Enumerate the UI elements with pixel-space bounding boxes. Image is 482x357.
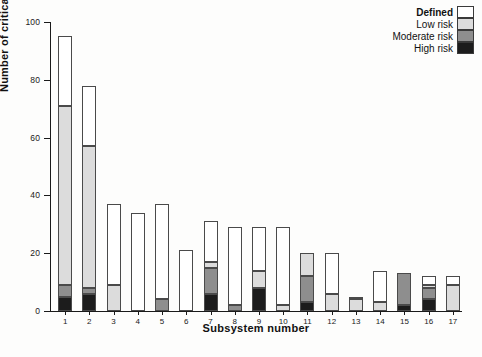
legend-swatch [457,42,474,54]
bar-segment[interactable] [204,294,218,311]
legend-swatch [457,6,474,18]
y-tick-mark [44,22,50,23]
x-tick-mark [65,311,66,315]
stacked-bar-chart: Number of critical parameters Subsystem … [0,0,482,357]
bar-segment[interactable] [422,288,436,300]
bar[interactable] [325,253,339,311]
x-tick-mark [89,311,90,315]
bar-segment[interactable] [252,227,266,270]
bar[interactable] [349,297,363,311]
x-tick-mark [259,311,260,315]
legend-label: Low risk [416,19,453,30]
bar[interactable] [58,36,72,311]
bar-segment[interactable] [82,288,96,294]
legend-item[interactable]: Moderate risk [294,30,474,42]
x-tick-mark [283,311,284,315]
legend-label: Defined [416,7,453,18]
bar[interactable] [228,227,242,311]
bar-segment[interactable] [276,227,290,305]
bar-segment[interactable] [252,271,266,288]
bar-segment[interactable] [228,305,242,311]
plot-area: 020406080100 1234567891011121314151617 [50,22,462,311]
bar-segment[interactable] [228,227,242,305]
bar-segment[interactable] [204,221,218,261]
bar-segment[interactable] [300,302,314,311]
x-tick-mark [211,311,212,315]
bar-segment[interactable] [325,253,339,293]
bar[interactable] [155,204,169,311]
bar-segment[interactable] [155,204,169,299]
bar-segment[interactable] [58,36,72,105]
bar-segment[interactable] [300,276,314,302]
bar-segment[interactable] [204,268,218,294]
bar-segment[interactable] [82,146,96,288]
x-tick-label: 17 [438,317,468,326]
x-tick-mark [453,311,454,315]
legend-item[interactable]: Defined [294,6,474,18]
x-tick-mark [380,311,381,315]
bar-segment[interactable] [422,299,436,311]
bar[interactable] [252,227,266,311]
x-tick-mark [186,311,187,315]
bar-segment[interactable] [422,276,436,285]
bar-segment[interactable] [58,106,72,285]
y-tick-label: 0 [0,307,40,315]
bar-segment[interactable] [446,276,460,285]
x-tick-mark [138,311,139,315]
x-tick-mark [404,311,405,315]
bar-segment[interactable] [252,288,266,311]
bar-segment[interactable] [58,285,72,297]
y-tick-label: 40 [0,191,40,199]
bar-segment[interactable] [131,213,145,311]
y-tick-mark [44,80,50,81]
bar-segment[interactable] [179,250,193,311]
x-tick-mark [162,311,163,315]
bar-segment[interactable] [82,294,96,311]
bar-segment[interactable] [155,299,169,311]
bar-segment[interactable] [373,302,387,311]
x-tick-mark [235,311,236,315]
bar-segment[interactable] [107,204,121,285]
x-tick-mark [114,311,115,315]
bar-segment[interactable] [58,297,72,311]
bar-segment[interactable] [349,297,363,300]
legend: DefinedLow riskModerate riskHigh risk [294,6,474,54]
bar[interactable] [131,213,145,311]
y-tick-mark [44,195,50,196]
y-tick-mark [44,253,50,254]
bar-segment[interactable] [397,305,411,311]
bar[interactable] [82,86,96,311]
bar[interactable] [300,253,314,311]
bar[interactable] [373,271,387,311]
bar-segment[interactable] [204,262,218,268]
bar-segment[interactable] [397,273,411,305]
y-tick-label: 20 [0,249,40,257]
legend-swatch [457,30,474,42]
bar-segment[interactable] [107,285,121,311]
legend-label: Moderate risk [392,31,453,42]
bar[interactable] [107,204,121,311]
bar[interactable] [446,276,460,311]
y-tick-label: 100 [0,18,40,26]
legend-label: High risk [414,43,453,54]
bar-segment[interactable] [325,294,339,311]
bar-segment[interactable] [82,86,96,147]
bar[interactable] [204,221,218,311]
y-tick-label: 80 [0,76,40,84]
bar-segment[interactable] [349,299,363,311]
bar-segment[interactable] [422,285,436,288]
legend-item[interactable]: High risk [294,42,474,54]
x-tick-mark [332,311,333,315]
x-tick-mark [429,311,430,315]
bar[interactable] [276,227,290,311]
bar-segment[interactable] [446,285,460,311]
bar[interactable] [179,250,193,311]
x-axis-line [50,311,462,312]
bar[interactable] [397,273,411,311]
bar-segment[interactable] [276,305,290,311]
legend-item[interactable]: Low risk [294,18,474,30]
bar-segment[interactable] [373,271,387,303]
x-tick-mark [307,311,308,315]
bar-segment[interactable] [300,253,314,276]
bar[interactable] [422,276,436,311]
